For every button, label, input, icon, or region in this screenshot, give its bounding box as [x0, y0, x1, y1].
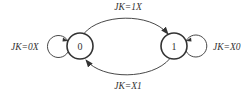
- state-diagram: 0 1 JK=0X JK=1X JK=X0 JK=X1: [0, 0, 252, 93]
- self-loop-0: [47, 36, 68, 58]
- state-1-label: 1: [172, 41, 177, 52]
- state-0-label: 0: [78, 41, 83, 52]
- transition-0-to-1: [84, 18, 168, 34]
- transition-label-x0: JK=X0: [213, 42, 241, 52]
- transition-label-x1: JK=X1: [114, 81, 142, 91]
- transition-label-0x: JK=0X: [11, 42, 40, 52]
- state-1: 1: [161, 33, 187, 59]
- transition-1-to-0: [86, 59, 170, 75]
- state-0: 0: [67, 33, 93, 59]
- self-loop-1: [186, 35, 207, 57]
- transition-label-1x: JK=1X: [114, 2, 143, 12]
